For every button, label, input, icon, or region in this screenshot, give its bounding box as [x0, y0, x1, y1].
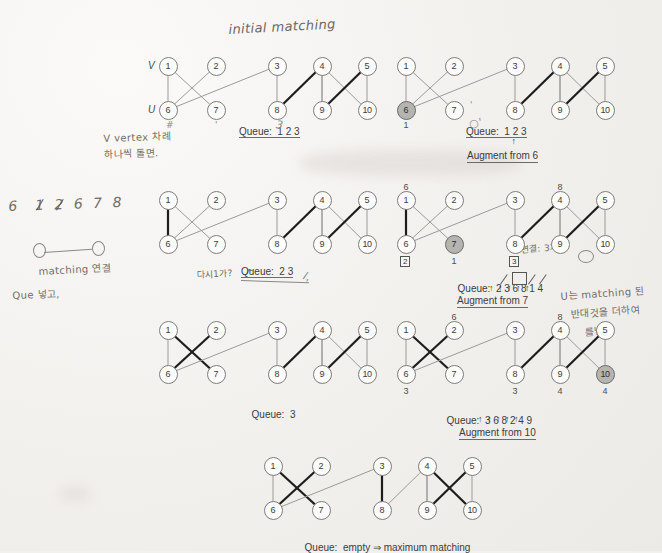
node-5[interactable]: 5 — [358, 57, 377, 76]
handwriting-dangi-note: 다시1가? — [196, 266, 233, 281]
node-10[interactable]: 10 — [596, 101, 615, 120]
node-6-highlighted[interactable]: 6 — [397, 101, 416, 120]
node-box-6: 2 — [400, 256, 410, 267]
node-8[interactable]: 8 — [506, 365, 525, 384]
queue-label-g5: Queue: 3 — [252, 409, 296, 420]
node-5[interactable]: 5 — [358, 191, 377, 210]
node-4[interactable]: 4 — [551, 191, 570, 210]
augment-label-g6: Augment from 10 — [459, 427, 536, 440]
node-5[interactable]: 5 — [596, 191, 615, 210]
node-7-highlighted[interactable]: 7 — [445, 235, 464, 254]
node-number-9: 4 — [551, 386, 569, 396]
node-number-7: 1 — [445, 256, 463, 266]
node-9[interactable]: 9 — [551, 101, 570, 120]
node-1[interactable]: 1 — [397, 57, 416, 76]
node-9[interactable]: 9 — [551, 235, 570, 254]
node-2[interactable]: 2 — [445, 191, 464, 210]
node-8[interactable]: 8 — [506, 101, 525, 120]
node-4[interactable]: 4 — [313, 191, 332, 210]
node-7[interactable]: 7 — [312, 501, 331, 520]
node-8[interactable]: 8 — [268, 235, 287, 254]
node-10[interactable]: 10 — [463, 501, 482, 520]
node-6[interactable]: 6 — [159, 365, 178, 384]
node-5[interactable]: 5 — [596, 57, 615, 76]
queue-caption-g3: Queue: 2 3 — [241, 266, 293, 277]
node-3[interactable]: 3 — [506, 321, 525, 340]
node-10[interactable]: 10 — [358, 235, 377, 254]
augment-label-g2: Augment from 6 — [467, 150, 538, 163]
node-2[interactable]: 2 — [207, 321, 226, 340]
node-8[interactable]: 8 — [373, 501, 392, 520]
node-1[interactable]: 1 — [159, 321, 178, 340]
node-8[interactable]: 8 — [268, 365, 287, 384]
queue-caption-g2: Queue: 1 2 3 — [466, 126, 527, 137]
node-2[interactable]: 2 — [445, 321, 464, 340]
node-box-8: 3 — [509, 256, 519, 267]
queue-label-g3: Queue: 2 3 — [241, 266, 293, 278]
node-number-6: 3 — [397, 386, 415, 396]
node-3[interactable]: 3 — [268, 321, 287, 340]
node-4[interactable]: 4 — [313, 321, 332, 340]
node-6[interactable]: 6 — [397, 365, 416, 384]
queue-caption-g1: Queue: 1 2 3 — [239, 126, 300, 137]
node-5[interactable]: 5 — [596, 321, 615, 340]
node-1[interactable]: 1 — [264, 457, 283, 476]
queue-label-g2: Queue: 1 2 3 — [466, 126, 527, 138]
node-1[interactable]: 1 — [159, 191, 178, 210]
node-3[interactable]: 3 — [268, 191, 287, 210]
augment-label-g4: Augment from 7 — [457, 295, 528, 308]
queue-label-g7: Queue: empty ⇒ maximum matching — [305, 542, 471, 553]
node-10[interactable]: 10 — [358, 365, 377, 384]
node-4[interactable]: 4 — [551, 321, 570, 340]
node-10-highlighted[interactable]: 10 — [596, 365, 615, 384]
handwriting-v-vertex: V vertex 차례 — [103, 128, 171, 145]
queue-caption-g5: Queue: 3 — [246, 398, 295, 420]
node-7[interactable]: 7 — [445, 101, 464, 120]
node-9[interactable]: 9 — [313, 365, 332, 384]
node-1[interactable]: 1 — [397, 191, 416, 210]
node-2[interactable]: 2 — [445, 57, 464, 76]
node-7[interactable]: 7 — [207, 101, 226, 120]
node-7[interactable]: 7 — [207, 235, 226, 254]
queue-pointers-g4: ↑ ↑ ↑ ↑ ↑ — [489, 283, 531, 293]
handwriting-tick-6: # — [166, 120, 174, 130]
node-10[interactable]: 10 — [596, 235, 615, 254]
node-6[interactable]: 6 — [159, 235, 178, 254]
node-9[interactable]: 9 — [313, 235, 332, 254]
node-6[interactable]: 6 — [397, 235, 416, 254]
node-4[interactable]: 4 — [418, 457, 437, 476]
node-2[interactable]: 2 — [207, 191, 226, 210]
node-3[interactable]: 3 — [268, 57, 287, 76]
node-4[interactable]: 4 — [551, 57, 570, 76]
handwriting-circle-left — [33, 243, 46, 258]
node-9[interactable]: 9 — [418, 501, 437, 520]
node-number-6: 1 — [397, 120, 415, 130]
node-3[interactable]: 3 — [373, 457, 392, 476]
node-7[interactable]: 7 — [445, 365, 464, 384]
node-8[interactable]: 8 — [268, 101, 287, 120]
node-8[interactable]: 8 — [506, 235, 525, 254]
handwriting-queue-note: Que 넣고, — [12, 285, 60, 302]
node-2[interactable]: 2 — [312, 457, 331, 476]
node-number-10: 4 — [596, 386, 614, 396]
node-6[interactable]: 6 — [264, 501, 283, 520]
handwriting-tick-7: ' — [215, 120, 218, 130]
node-4[interactable]: 4 — [313, 57, 332, 76]
node-1[interactable]: 1 — [159, 57, 178, 76]
node-3[interactable]: 3 — [506, 191, 525, 210]
node-9[interactable]: 9 — [313, 101, 332, 120]
node-1[interactable]: 1 — [397, 321, 416, 340]
handwriting-v-vertex-2: 하나씩 돌면. — [104, 144, 159, 161]
node-6[interactable]: 6 — [159, 101, 178, 120]
node-7[interactable]: 7 — [207, 365, 226, 384]
axis-label-u-row1: U — [148, 104, 155, 115]
node-5[interactable]: 5 — [463, 457, 482, 476]
node-2[interactable]: 2 — [207, 57, 226, 76]
node-5[interactable]: 5 — [358, 321, 377, 340]
node-3[interactable]: 3 — [506, 57, 525, 76]
queue-pointer-g2: ↑ — [508, 136, 517, 146]
axis-label-v-row1: V — [148, 60, 155, 71]
handwriting-circle-right — [92, 241, 105, 256]
node-10[interactable]: 10 — [358, 101, 377, 120]
node-9[interactable]: 9 — [551, 365, 570, 384]
